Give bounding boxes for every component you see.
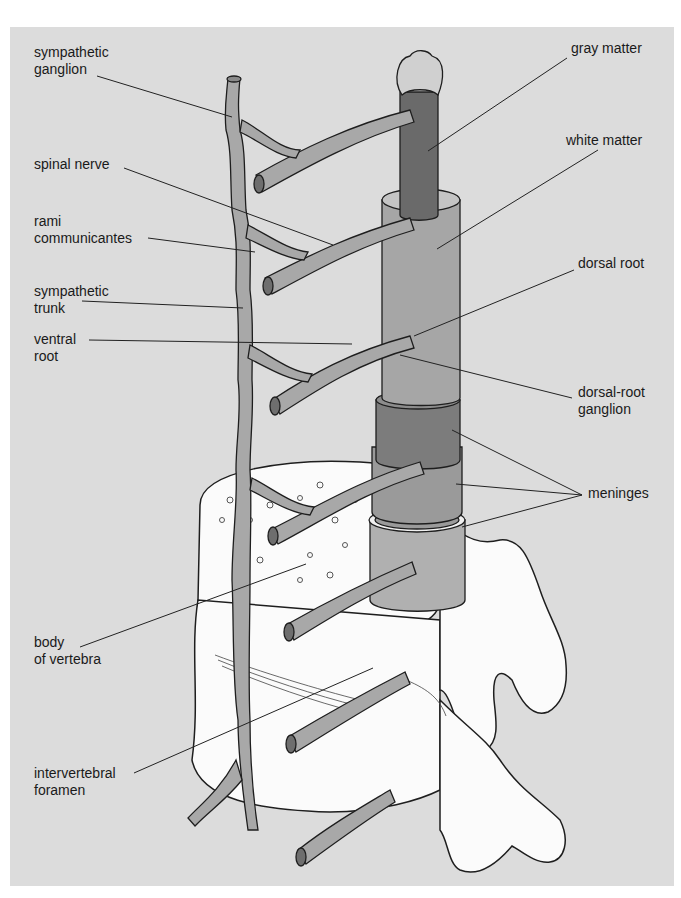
spinal-cord (369, 51, 465, 612)
label-text: ganglion (34, 61, 109, 78)
label-intervertebral-foramen: intervertebralforamen (34, 765, 116, 799)
label-text: foramen (34, 782, 116, 799)
cord-cross-section (397, 51, 443, 95)
label-text: ganglion (578, 401, 645, 418)
leader-line (462, 495, 582, 527)
label-meninges: meninges (588, 485, 649, 502)
label-ventral-root: ventralroot (34, 331, 76, 365)
label-text: trunk (34, 300, 109, 317)
label-gray-matter: gray matter (571, 40, 642, 57)
label-sympathetic-trunk: sympathetictrunk (34, 283, 109, 317)
label-text: sympathetic (34, 283, 109, 300)
label-dorsal-root: dorsal root (578, 255, 644, 272)
leader-line (428, 58, 567, 151)
label-text: gray matter (571, 40, 642, 57)
label-text: body (34, 634, 101, 651)
label-dorsal-root-ganglion: dorsal-rootganglion (578, 384, 645, 418)
label-text: of vertebra (34, 651, 101, 668)
label-spinal-nerve: spinal nerve (34, 156, 110, 173)
leader-line (124, 168, 333, 245)
label-rami-communicantes: ramicommunicantes (34, 213, 132, 247)
meninges-outer (370, 520, 465, 611)
label-text: communicantes (34, 230, 132, 247)
leader-line (437, 150, 598, 249)
label-text: intervertebral (34, 765, 116, 782)
label-text: sympathetic (34, 44, 109, 61)
leader-line (89, 340, 352, 344)
label-text: spinal nerve (34, 156, 110, 173)
leader-line (97, 76, 232, 117)
label-white-matter: white matter (566, 132, 642, 149)
meninges-dark (376, 400, 460, 469)
label-body-of-vertebra: bodyof vertebra (34, 634, 101, 668)
label-text: dorsal-root (578, 384, 645, 401)
label-text: white matter (566, 132, 642, 149)
label-text: root (34, 348, 76, 365)
label-text: ventral (34, 331, 76, 348)
label-text: dorsal root (578, 255, 644, 272)
label-text: rami (34, 213, 132, 230)
label-sympathetic-ganglion: sympatheticganglion (34, 44, 109, 78)
label-text: meninges (588, 485, 649, 502)
